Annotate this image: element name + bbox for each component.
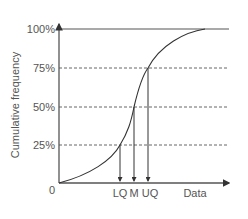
origin-label: 0 [49,184,55,196]
y-tick-50: 50% [33,101,55,113]
uq-label: UQ [142,187,159,199]
x-axis-label: Data [183,187,207,199]
y-axis-label: Cumulative frequency [9,51,21,158]
y-tick-75: 75% [33,62,55,74]
cumulative-frequency-curve [59,29,205,183]
lq-label: LQ [113,187,128,199]
cumulative-frequency-chart: 100% 75% 50% 25% 0 LQ M UQ Data Cumulati… [0,0,248,219]
y-tick-100: 100% [27,23,55,35]
y-tick-25: 25% [33,139,55,151]
m-label: M [129,187,138,199]
